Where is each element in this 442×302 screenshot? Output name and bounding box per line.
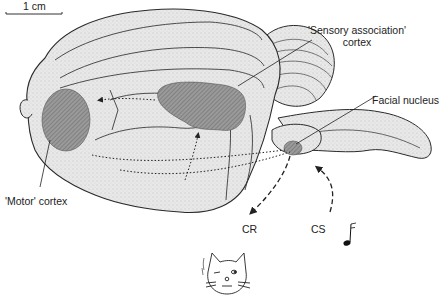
sensory-association-line2: cortex (308, 36, 406, 48)
motor-cortex-label: 'Motor' cortex (5, 195, 67, 207)
scale-bar (6, 12, 62, 14)
cs-label: CS (311, 223, 326, 235)
winking-cat-icon (202, 253, 250, 294)
cr-arrow (252, 156, 290, 212)
musical-note-icon (343, 223, 356, 247)
scale-bar-label: 1 cm (23, 0, 46, 12)
sensory-association-label: 'Sensory association' cortex (308, 24, 406, 48)
cs-arrow (318, 168, 333, 212)
cr-label: CR (242, 223, 257, 235)
facial-nucleus-label: Facial nucleus (372, 94, 439, 106)
motor-cortex-region (42, 89, 90, 151)
sensory-association-line1: 'Sensory association' (308, 24, 406, 36)
